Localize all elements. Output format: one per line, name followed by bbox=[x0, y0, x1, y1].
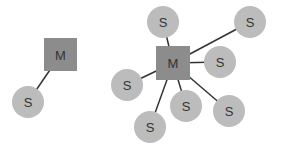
master-node: M bbox=[156, 46, 190, 80]
slave-node: S bbox=[204, 46, 236, 78]
nodes: SMSSSSSSSM bbox=[12, 6, 266, 143]
slave-label: S bbox=[182, 99, 191, 114]
slave-label: S bbox=[159, 15, 168, 30]
slave-label: S bbox=[24, 95, 33, 110]
slave-label: S bbox=[123, 78, 132, 93]
master-label: M bbox=[55, 48, 66, 63]
slave-label: S bbox=[146, 120, 155, 135]
slave-node: S bbox=[213, 95, 245, 127]
slave-node: S bbox=[134, 111, 166, 143]
slave-label: S bbox=[216, 55, 225, 70]
master-label: M bbox=[168, 56, 179, 71]
slave-node: S bbox=[111, 69, 143, 101]
master-node: M bbox=[44, 38, 77, 71]
slave-label: S bbox=[225, 104, 234, 119]
slave-node: S bbox=[234, 6, 266, 38]
slave-label: S bbox=[246, 15, 255, 30]
star-topology-diagram: SMSSSSSSSM bbox=[0, 0, 282, 154]
slave-node: S bbox=[12, 86, 44, 118]
slave-node: S bbox=[170, 90, 202, 122]
slave-node: S bbox=[147, 6, 179, 38]
